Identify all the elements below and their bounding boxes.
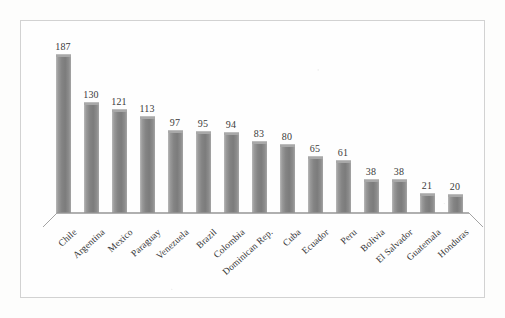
bar-column: 80 [280,146,295,213]
bar-column: 38 [392,181,407,213]
bar-column: 83 [252,143,267,213]
bar-value-label: 61 [338,147,348,158]
category-label: Cuba [281,227,303,248]
bar-top-face [112,109,127,112]
bar-value-label: 121 [111,96,127,107]
bar-body [56,56,71,213]
bar-chile[interactable]: 187 [56,56,71,213]
bar-body [196,133,211,213]
bar-column: 94 [224,134,239,213]
bar-top-face [140,116,155,119]
bar-column: 95 [196,133,211,213]
bar-honduras[interactable]: 20 [448,196,463,213]
bar-top-face [168,130,183,133]
bar-body [308,158,323,213]
bar-column: 97 [168,132,183,213]
bar-value-label: 20 [450,181,460,192]
bar-paraguay[interactable]: 113 [140,118,155,213]
bar-colombia[interactable]: 94 [224,134,239,213]
plot-area: 1871301211139795948380656138382120 [49,33,469,223]
bar-column: 187 [56,56,71,213]
bar-top-face [84,102,99,105]
bar-value-label: 130 [83,89,99,100]
bar-body [252,143,267,213]
bar-top-face [252,141,267,144]
bar-body [420,195,435,213]
bar-value-label: 38 [366,166,376,177]
bar-value-label: 94 [226,119,236,130]
bar-body [280,146,295,213]
bar-value-label: 38 [394,166,404,177]
category-label: Peru [339,227,359,246]
bar-body [140,118,155,213]
bar-el-salvador[interactable]: 38 [392,181,407,213]
bar-top-face [56,54,71,57]
bar-body [336,162,351,213]
bar-column: 20 [448,196,463,213]
bar-peru[interactable]: 61 [336,162,351,213]
bar-argentina[interactable]: 130 [84,104,99,213]
bar-body [224,134,239,213]
bar-venezuela[interactable]: 97 [168,132,183,213]
bar-ecuador[interactable]: 65 [308,158,323,213]
bar-brazil[interactable]: 95 [196,133,211,213]
bar-column: 65 [308,158,323,213]
bar-column: 121 [112,111,127,213]
bar-value-label: 80 [282,131,292,142]
bar-top-face [420,193,435,196]
bar-mexico[interactable]: 121 [112,111,127,213]
bar-value-label: 65 [310,143,320,154]
bar-bolivia[interactable]: 38 [364,181,379,213]
bar-body [392,181,407,213]
bar-top-face [308,156,323,159]
bar-column: 113 [140,118,155,213]
category-label: Dominican Rep. [221,227,275,277]
bar-body [448,196,463,213]
bar-top-face [336,160,351,163]
bar-value-label: 97 [170,117,180,128]
bar-dominican-rep[interactable]: 83 [252,143,267,213]
bar-body [112,111,127,213]
scanned-page: 1871301211139795948380656138382120 Chile… [0,0,505,318]
bar-body [84,104,99,213]
bar-column: 61 [336,162,351,213]
category-label: Ecuador [300,227,331,256]
bar-top-face [392,179,407,182]
category-label: Brazil [194,227,218,250]
bar-value-label: 83 [254,128,264,139]
chart-frame: 1871301211139795948380656138382120 Chile… [20,20,485,298]
bar-column: 130 [84,104,99,213]
bar-guatemala[interactable]: 21 [420,195,435,213]
bar-value-label: 113 [139,103,154,114]
bar-cuba[interactable]: 80 [280,146,295,213]
bar-top-face [448,194,463,197]
bar-value-label: 21 [422,180,432,191]
category-label: Chile [56,227,78,249]
bar-top-face [280,144,295,147]
bar-top-face [364,179,379,182]
bar-column: 38 [364,181,379,213]
bar-value-label: 187 [55,41,71,52]
category-label-group: ChileArgentinaMexicoParaguayVenezuelaBra… [49,227,469,297]
bar-body [168,132,183,213]
bar-top-face [224,132,239,135]
bar-column: 21 [420,195,435,213]
bar-value-label: 95 [198,118,208,129]
bar-body [364,181,379,213]
bar-top-face [196,131,211,134]
